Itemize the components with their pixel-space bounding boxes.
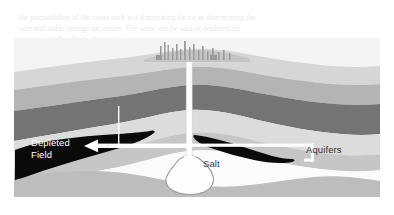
- tie-line-vertical-left: [118, 106, 119, 146]
- label-depleted-field: Depleted Field: [31, 137, 70, 160]
- label-salt: Salt: [203, 158, 220, 169]
- geology-cross-section-figure: the permeability of the cover rock is a …: [0, 0, 394, 215]
- tie-line-vertical-right: [190, 106, 191, 146]
- label-aquifers: Aquifers: [306, 144, 342, 155]
- label-depleted-field-line2: Field: [31, 149, 70, 161]
- aquifer-line-horizontal: [190, 144, 314, 147]
- ghost-line-1: the permeability of the cover rock is a …: [19, 12, 379, 23]
- injection-line-left: [98, 144, 188, 148]
- aquifer-line-tick: [304, 159, 314, 162]
- ghost-line-2: safe and stable storage necessary. The s…: [19, 23, 379, 34]
- label-depleted-field-line1: Depleted: [31, 137, 70, 149]
- cross-section-canvas: [14, 38, 380, 197]
